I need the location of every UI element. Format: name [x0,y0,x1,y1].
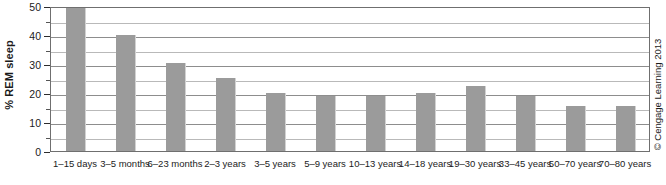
x-tick-label: 2–3 years [204,158,246,169]
bar [66,7,86,151]
bar [366,96,386,151]
x-tick-label: 50–70 years [549,158,601,169]
y-tick-mark-major [44,152,50,153]
copyright-credit: © Cengage Learning 2013 [653,38,664,150]
plot-area [50,7,650,152]
credit-container: © Cengage Learning 2013 [650,14,666,174]
bar [216,78,236,151]
bar [516,96,536,151]
bar [166,63,186,151]
bar [416,93,436,151]
x-tick-label: 1–15 days [53,158,97,169]
bar [566,106,586,151]
x-tick-label: 5–9 years [304,158,346,169]
y-tick-label: 10 [29,117,41,129]
rem-sleep-bar-chart: % REM sleep 01020304050 1–15 days3–5 mon… [0,0,666,185]
y-tick-label: 40 [29,30,41,42]
y-axis-title-container: % REM sleep [0,0,18,150]
bar [266,93,286,151]
y-tick-label: 50 [29,1,41,13]
bar-series [51,8,649,151]
x-tick-label: 70–80 years [599,158,651,169]
y-tick-label: 30 [29,59,41,71]
y-axis-title: % REM sleep [3,40,15,110]
y-axis-tick-labels: 01020304050 [18,0,44,160]
bar [616,106,636,151]
x-tick-label: 14–18 years [399,158,451,169]
x-tick-label: 3–5 months [100,158,150,169]
bar [466,86,486,151]
y-tick-label: 0 [35,146,41,158]
x-tick-label: 19–30 years [449,158,501,169]
bar [116,35,136,151]
x-tick-label: 6–23 months [148,158,203,169]
x-tick-label: 10–13 years [349,158,401,169]
bar [316,96,336,151]
y-tick-label: 20 [29,88,41,100]
x-tick-label: 33–45 years [499,158,551,169]
x-tick-label: 3–5 years [254,158,296,169]
x-axis-tick-labels: 1–15 days3–5 months6–23 months2–3 years3… [50,158,650,174]
